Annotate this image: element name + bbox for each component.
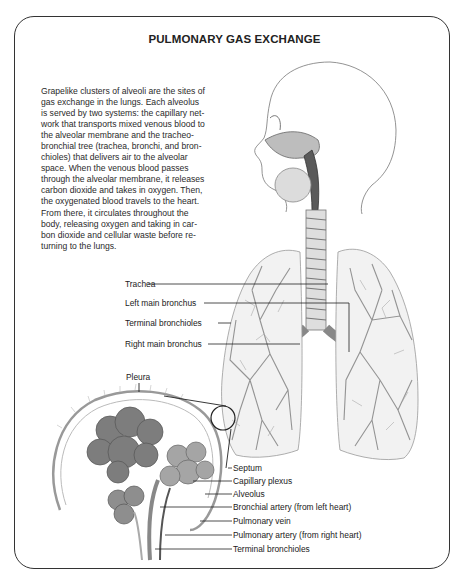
- label-pulmonary-vein: Pulmonary vein: [233, 516, 291, 526]
- label-right-main-bronchus: Right main bronchus: [125, 339, 202, 349]
- head-illustration: [255, 62, 396, 214]
- label-alveolus: Alveolus: [233, 489, 265, 499]
- label-septum: Septum: [233, 463, 262, 473]
- alveolus-illustration: [53, 384, 221, 560]
- label-terminal-bronchioles: Terminal bronchioles: [125, 318, 202, 328]
- label-pleura: Pleura: [126, 372, 150, 382]
- label-bronchial-artery: Bronchial artery (from left heart): [233, 502, 351, 512]
- label-terminal-bronchioles-alveolar: Terminal bronchioles: [233, 544, 310, 554]
- label-capillary-plexus: Capillary plexus: [233, 476, 292, 486]
- label-trachea: Trachea: [125, 279, 155, 289]
- label-pulmonary-artery: Pulmonary artery (from right heart): [233, 530, 361, 540]
- label-left-main-bronchus: Left main bronchus: [125, 298, 196, 308]
